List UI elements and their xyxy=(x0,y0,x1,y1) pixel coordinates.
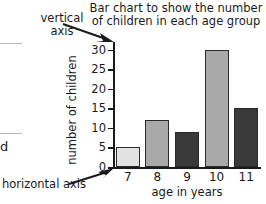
y-tick-mark xyxy=(108,167,113,169)
y-tick-mark xyxy=(108,108,113,110)
bar xyxy=(234,108,258,167)
y-tick-label: 10 xyxy=(91,122,106,134)
y-tick-mark xyxy=(108,50,113,52)
x-tick-label: 11 xyxy=(239,171,254,184)
x-tick-label: 8 xyxy=(154,171,162,184)
y-axis-label-text: number of children xyxy=(66,50,78,170)
page-rule-fragment-top xyxy=(0,43,22,44)
y-tick-label: 15 xyxy=(91,102,106,114)
y-tick-mark xyxy=(108,128,113,130)
figure-page: d vertical axis horizontal axis Bar char… xyxy=(0,0,266,204)
x-tick-label: 7 xyxy=(124,171,132,184)
y-tick-label: 0 xyxy=(99,161,106,173)
y-tick-label: 5 xyxy=(99,141,106,153)
bar xyxy=(205,50,229,167)
x-axis-line xyxy=(113,167,261,169)
x-axis-label: age in years xyxy=(113,186,261,198)
bar xyxy=(145,120,169,167)
page-edge-text-fragment: d xyxy=(0,140,8,154)
page-rule-fragment-middle xyxy=(0,133,22,134)
y-tick-label: 30 xyxy=(91,44,106,56)
y-axis-line xyxy=(113,42,115,167)
y-tick-mark xyxy=(108,147,113,149)
y-axis-label: number of children xyxy=(66,0,78,50)
y-tick-mark xyxy=(108,89,113,91)
horizontal-axis-arrow-icon xyxy=(68,168,118,186)
chart-title: Bar chart to show the number of children… xyxy=(86,2,266,28)
bar xyxy=(175,132,199,167)
y-tick-label: 25 xyxy=(91,63,106,75)
y-tick-mark xyxy=(108,69,113,71)
x-tick-label: 10 xyxy=(209,171,224,184)
x-tick-label: 9 xyxy=(183,171,191,184)
y-tick-label: 20 xyxy=(91,83,106,95)
plot-area: 051015202530 7891011 xyxy=(113,42,261,167)
bar xyxy=(116,147,140,167)
